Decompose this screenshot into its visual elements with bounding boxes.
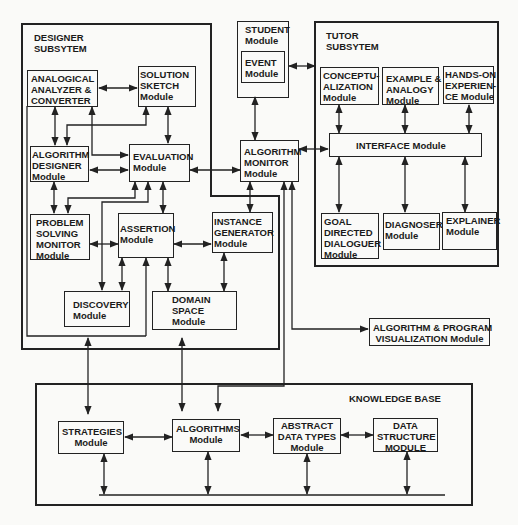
tutor-title-line2: SUBSYTEM — [326, 41, 379, 52]
module-label: ANALOGICAL — [31, 73, 94, 84]
assertion-module[interactable]: ASSERTION Module — [118, 213, 174, 258]
module-label: INTERFACE Module — [356, 140, 478, 151]
explainer-module[interactable]: EXPLAINER Module — [442, 212, 497, 250]
module-label: Module — [244, 168, 295, 179]
module-label: CE Module — [445, 91, 490, 102]
module-label: MONITOR — [36, 239, 86, 250]
module-label: SOLUTION — [140, 69, 192, 80]
architecture-diagram: DESIGNER SUBSYTEM TUTOR SUBSYTEM KNOWLED… — [0, 0, 518, 525]
discovery-module[interactable]: DISCOVERY Module — [64, 291, 130, 327]
instance-generator-module[interactable]: INSTANCE GENERATOR Module — [212, 212, 273, 253]
module-label: Module — [214, 238, 269, 249]
module-label: ASSERTION — [120, 223, 170, 234]
goal-directed-dialoguer-module[interactable]: GOAL DIRECTED DIALOGUER Module — [321, 213, 379, 259]
module-label: STRATEGIES — [62, 426, 120, 437]
module-label: GOAL — [324, 216, 375, 227]
module-label: MODULE — [377, 442, 434, 453]
module-label: EXPLAINER — [446, 215, 493, 226]
module-label: CONVERTER — [31, 95, 94, 106]
module-label: Module — [140, 91, 192, 102]
module-label: DATA — [377, 420, 434, 431]
analogical-analyzer-converter-module[interactable]: ANALOGICAL ANALYZER & CONVERTER — [27, 70, 98, 107]
data-structure-module[interactable]: DATA STRUCTURE MODULE — [373, 418, 438, 452]
module-label: EXPERIEN- — [445, 80, 490, 91]
module-label: ABSTRACT — [277, 420, 337, 431]
module-label: DISCOVERY — [73, 299, 126, 310]
module-label: Module — [73, 310, 126, 321]
module-label: GENERATOR — [214, 227, 269, 238]
evaluation-module[interactable]: EVALUATION Module — [129, 144, 190, 182]
module-label: VISUALIZATION Module — [373, 333, 486, 344]
module-label: CONCEPTU- — [323, 70, 375, 81]
tutor-subsystem-title: TUTOR SUBSYTEM — [326, 30, 379, 52]
algorithm-designer-module[interactable]: ALGORITHM DESIGNER Module — [30, 146, 89, 182]
module-label: Module — [32, 171, 85, 182]
knowledge-base-title: KNOWLEDGE BASE — [349, 393, 441, 404]
module-label: Module — [172, 316, 233, 327]
module-label: ANALYZER & — [31, 84, 94, 95]
hands-on-experience-module[interactable]: HANDS-ON EXPERIEN- CE Module — [443, 66, 494, 104]
module-label: Module — [324, 249, 375, 260]
module-label: EVENT — [245, 57, 281, 68]
conceptualization-module[interactable]: CONCEPTU- ALIZATION Module — [320, 67, 379, 105]
module-label: EXAMPLE & — [386, 73, 435, 84]
module-label: DIRECTED — [324, 227, 375, 238]
module-label: Module — [245, 68, 281, 79]
module-label: DESIGNER — [32, 160, 85, 171]
module-label: DATA TYPES — [277, 431, 337, 442]
abstract-data-types-module[interactable]: ABSTRACT DATA TYPES Module — [273, 418, 341, 454]
tutor-title-line1: TUTOR — [326, 30, 379, 41]
module-label: STUDENT — [245, 24, 285, 35]
module-label: EVALUATION — [133, 151, 186, 162]
module-label: SPACE — [172, 305, 233, 316]
module-label: DOMAIN — [172, 294, 233, 305]
solution-sketch-module[interactable]: SOLUTION SKETCH Module — [138, 66, 196, 107]
module-label: Module — [36, 250, 86, 261]
module-label: Module — [133, 162, 186, 173]
module-label: ALIZATION — [323, 81, 375, 92]
module-label: Module — [385, 230, 436, 241]
module-label: DIAGNOSER — [385, 219, 436, 230]
module-label: STRUCTURE — [377, 431, 434, 442]
module-label: Module — [120, 234, 170, 245]
module-label: SKETCH — [140, 80, 192, 91]
algorithm-monitor-module[interactable]: ALGORITHM MONITOR Module — [240, 140, 299, 182]
module-label: PROBLEM — [36, 217, 86, 228]
module-label: ALGORITHMS — [176, 423, 236, 434]
example-analogy-module[interactable]: EXAMPLE & ANALOGY Module — [382, 67, 439, 105]
strategies-module[interactable]: STRATEGIES Module — [58, 421, 124, 454]
module-label: MONITOR — [244, 157, 295, 168]
algorithms-module[interactable]: ALGORITHMS Module — [172, 419, 240, 452]
diagnoser-module[interactable]: DIAGNOSER Module — [383, 213, 440, 250]
module-label: INSTANCE — [214, 216, 269, 227]
domain-space-module[interactable]: DOMAIN SPACE Module — [152, 291, 237, 330]
designer-title-line1: DESIGNER — [34, 32, 87, 43]
module-label: ALGORITHM — [244, 146, 295, 157]
problem-solving-monitor-module[interactable]: PROBLEM SOLVING MONITOR Module — [30, 214, 90, 260]
algorithm-program-visualization-module[interactable]: ALGORITHM & PROGRAM VISUALIZATION Module — [369, 318, 490, 346]
event-module[interactable]: EVENT Module — [241, 51, 285, 83]
module-label: ANALOGY — [386, 84, 435, 95]
module-label: Module — [277, 442, 337, 453]
module-label: Module — [62, 437, 120, 448]
interface-module[interactable]: INTERFACE Module — [329, 133, 482, 157]
designer-title-line2: SUBSYTEM — [34, 43, 87, 54]
module-label: ALGORITHM — [32, 149, 85, 160]
designer-subsystem-title: DESIGNER SUBSYTEM — [34, 32, 87, 54]
module-label: Module — [323, 92, 375, 103]
module-label: DIALOGUER — [324, 238, 375, 249]
module-label: Module — [245, 35, 285, 46]
module-label: SOLVING — [36, 228, 86, 239]
module-label: ALGORITHM & PROGRAM — [373, 322, 486, 333]
module-label: HANDS-ON — [445, 69, 490, 80]
module-label: Module — [446, 226, 493, 237]
module-label: Module — [386, 95, 435, 106]
module-label: Module — [176, 434, 236, 445]
